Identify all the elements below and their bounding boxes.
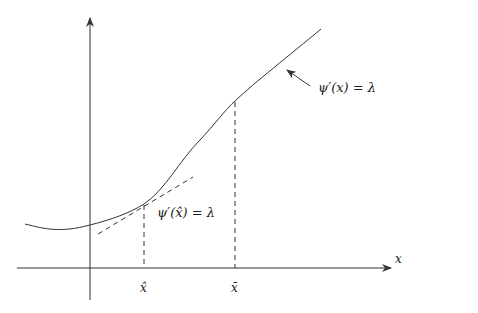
x-axis-label: x xyxy=(395,252,402,266)
annotation-arrow xyxy=(287,70,310,86)
diagram: ψ′(x) = λ ψ′(x̂) = λ x̂ x̄ x xyxy=(0,0,478,313)
x-hat-label: x̂ xyxy=(140,281,147,295)
psi-curve xyxy=(25,29,321,230)
x-bar-label: x̄ xyxy=(231,281,238,295)
slope-label: ψ′(x) = λ xyxy=(318,80,376,95)
tangent-label: ψ′(x̂) = λ xyxy=(157,205,215,220)
